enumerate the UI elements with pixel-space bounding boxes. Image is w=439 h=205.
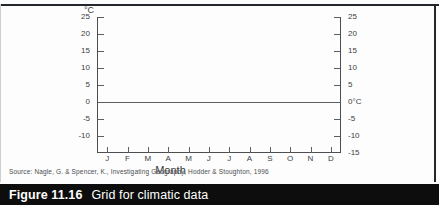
x-axis-tick-label: M — [141, 154, 155, 163]
figure-frame-right-rule — [434, 4, 436, 182]
y-axis-right-tick-label: -5 — [348, 115, 372, 123]
figure-frame-left-rule — [0, 4, 1, 182]
source-attribution: Source: Nagle, G. & Spencer, K., Investi… — [9, 168, 269, 175]
x-axis-tick-label: N — [304, 154, 318, 163]
y-axis-left-tick — [98, 68, 104, 69]
x-axis-tick-label: A — [243, 154, 257, 163]
y-axis-right-tick-label: 10 — [348, 64, 372, 72]
y-axis-left-tick-label: 25 — [70, 13, 90, 21]
x-axis-tick — [148, 147, 149, 153]
climate-grid-plot: 25252020151510105500°C-5-5-10-10-15 JFMA… — [97, 17, 341, 153]
y-axis-right-tick-label: -15 — [348, 149, 372, 157]
x-axis-tick — [209, 147, 210, 153]
y-axis-right-tick — [334, 17, 340, 18]
y-axis-right-tick-label: 0°C — [348, 98, 372, 106]
y-axis-right-tick — [334, 119, 340, 120]
x-axis-tick-label: O — [283, 154, 297, 163]
x-axis-tick — [290, 147, 291, 153]
y-axis-left-tick-label: 0 — [70, 98, 90, 106]
x-axis-tick-label: D — [324, 154, 338, 163]
zero-degree-reference-line — [97, 102, 341, 103]
y-axis-left-tick — [98, 85, 104, 86]
y-axis-right-tick-label: 5 — [348, 81, 372, 89]
x-axis-tick — [229, 147, 230, 153]
figure-number: Figure 11.16 — [9, 188, 82, 202]
x-axis-tick-label: A — [161, 154, 175, 163]
x-axis-tick-label: J — [222, 154, 236, 163]
x-axis-tick-label: J — [100, 154, 114, 163]
x-axis-tick-label: M — [182, 154, 196, 163]
y-axis-left-tick — [98, 17, 104, 18]
x-axis-tick-label: S — [263, 154, 277, 163]
x-axis-line — [97, 152, 341, 153]
y-axis-left-tick-label: 20 — [70, 30, 90, 38]
x-axis-tick — [331, 147, 332, 153]
x-axis-tick — [189, 147, 190, 153]
y-axis-left-tick — [98, 34, 104, 35]
x-axis-tick — [128, 147, 129, 153]
y-axis-right-tick — [334, 136, 340, 137]
figure-caption-title: Grid for climatic data — [91, 188, 208, 202]
y-axis-right-tick-label: 15 — [348, 47, 372, 55]
x-axis-tick — [311, 147, 312, 153]
figure-frame-top-rule — [0, 4, 439, 6]
figure-container: °C 25252020151510105500°C-5-5-10-10-15 J… — [0, 0, 439, 205]
y-axis-left-tick-label: 5 — [70, 81, 90, 89]
x-axis-tick-label: F — [121, 154, 135, 163]
x-axis-tick — [107, 147, 108, 153]
y-axis-right-tick — [334, 51, 340, 52]
y-axis-right-line — [340, 17, 341, 153]
y-axis-right-tick-label: -10 — [348, 132, 372, 140]
y-axis-left-tick — [98, 51, 104, 52]
x-axis-tick — [250, 147, 251, 153]
y-axis-left-tick — [98, 136, 104, 137]
y-axis-left-tick-label: -10 — [70, 132, 90, 140]
y-axis-right-tick-label: 25 — [348, 13, 372, 21]
y-axis-right-tick — [334, 85, 340, 86]
x-axis-tick — [168, 147, 169, 153]
y-axis-right-tick-label: 20 — [348, 30, 372, 38]
y-axis-left-tick-label: -5 — [70, 115, 90, 123]
y-axis-right-tick — [334, 68, 340, 69]
y-axis-left-tick-label: 15 — [70, 47, 90, 55]
y-axis-left-tick-label: 10 — [70, 64, 90, 72]
x-axis-tick-label: J — [202, 154, 216, 163]
y-axis-left-tick — [98, 119, 104, 120]
figure-caption-bar: Figure 11.16 Grid for climatic data — [0, 184, 439, 205]
x-axis-tick — [270, 147, 271, 153]
y-axis-right-tick — [334, 34, 340, 35]
